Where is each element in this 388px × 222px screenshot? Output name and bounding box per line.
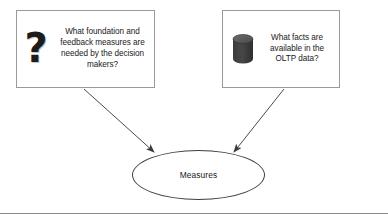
arrow-foundation-to-measures xyxy=(84,89,154,152)
question-mark-icon: ? xyxy=(19,29,53,69)
node-measures: Measures xyxy=(132,150,265,200)
question-box-oltp-label: What facts are available in the OLTP dat… xyxy=(259,33,339,66)
node-measures-label: Measures xyxy=(180,170,218,180)
question-box-foundation: ? What foundation and feedback measures … xyxy=(16,10,155,88)
database-cylinder-icon xyxy=(227,34,259,64)
question-box-oltp: What facts are available in the OLTP dat… xyxy=(222,10,340,88)
arrow-oltp-to-measures xyxy=(234,89,284,152)
question-mark-glyph: ? xyxy=(24,28,47,68)
question-box-foundation-label: What foundation and feedback measures ar… xyxy=(53,27,154,71)
bottom-divider xyxy=(0,213,388,214)
diagram-canvas: ? What foundation and feedback measures … xyxy=(0,0,388,222)
